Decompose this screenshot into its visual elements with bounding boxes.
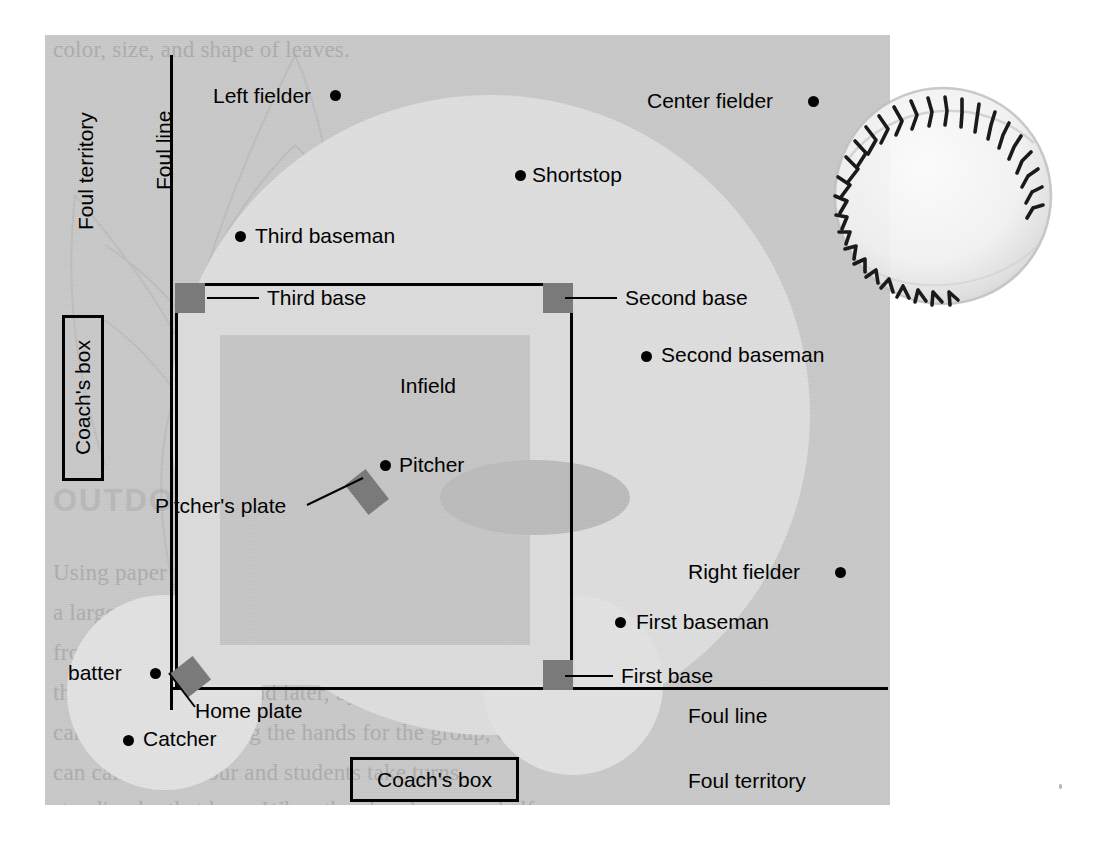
coachs-box-bottom: Coach's box (350, 757, 519, 802)
label-first-base: First base (621, 665, 713, 686)
field-diagram-panel: color, size, and shape of leaves. OUTDOO… (45, 35, 890, 805)
page-canvas: color, size, and shape of leaves. OUTDOO… (0, 0, 1105, 857)
label-foul-territory-left: Foul territory (75, 112, 96, 230)
coachs-box-left: Coach's box (62, 315, 104, 481)
label-shortstop: Shortstop (532, 164, 622, 185)
label-left-fielder: Left fielder (213, 85, 311, 106)
label-pitcher: Pitcher (399, 454, 464, 475)
label-center-fielder: Center fielder (647, 90, 773, 111)
first-baseman-dot (615, 617, 626, 628)
label-batter: batter (68, 662, 122, 683)
right-fielder-dot (835, 567, 846, 578)
label-foul-territory-right: Foul territory (688, 770, 806, 791)
pitcher-dot (380, 460, 391, 471)
second-baseman-dot (641, 351, 652, 362)
label-second-baseman: Second baseman (661, 344, 824, 365)
label-pitchers-plate: Pitcher's plate (155, 495, 286, 516)
label-third-base: Third base (267, 287, 366, 308)
label-infield: Infield (400, 375, 456, 396)
label-first-baseman: First baseman (636, 611, 769, 632)
label-catcher: Catcher (143, 728, 217, 749)
catcher-dot (123, 735, 134, 746)
label-home-plate: Home plate (195, 700, 302, 721)
scan-speck (1059, 784, 1062, 789)
shortstop-dot (515, 170, 526, 181)
center-fielder-dot (808, 96, 819, 107)
label-foul-line-left: Foul line (153, 111, 174, 190)
batter-dot (150, 668, 161, 679)
label-right-fielder: Right fielder (688, 561, 800, 582)
third-baseman-dot (235, 231, 246, 242)
label-third-baseman: Third baseman (255, 225, 395, 246)
label-second-base: Second base (625, 287, 748, 308)
label-foul-line-right: Foul line (688, 705, 767, 726)
baseball-image (832, 85, 1054, 307)
left-fielder-dot (330, 90, 341, 101)
